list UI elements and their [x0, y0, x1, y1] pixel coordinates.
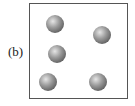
sphere-particle [89, 73, 107, 91]
sphere-particle [48, 45, 66, 63]
sphere-particle [46, 15, 64, 33]
sphere-particle [39, 73, 57, 91]
panel-label: (b) [8, 44, 23, 60]
sphere-particle [93, 26, 111, 44]
